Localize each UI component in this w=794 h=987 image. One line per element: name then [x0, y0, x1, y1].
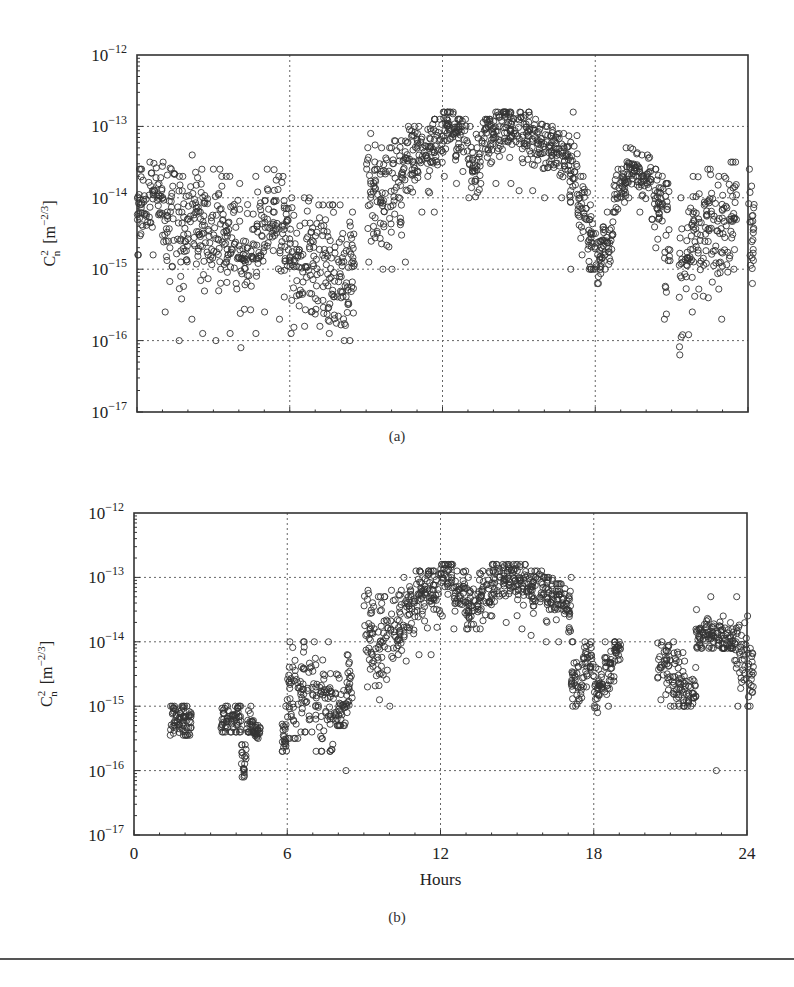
data-point [376, 682, 382, 688]
data-point [416, 652, 422, 658]
data-point [290, 644, 296, 650]
data-point [727, 620, 733, 626]
data-point [452, 608, 458, 614]
data-point [422, 618, 428, 624]
data-point [428, 652, 434, 658]
data-point [708, 594, 714, 600]
data-point [327, 671, 333, 677]
data-point [378, 663, 384, 669]
data-point [361, 603, 367, 609]
page-divider [0, 958, 794, 960]
data-point [720, 613, 726, 619]
data-point [734, 594, 740, 600]
data-point [738, 685, 744, 691]
data-point [309, 729, 315, 735]
data-point [445, 591, 451, 597]
x-axis-label: Hours [420, 870, 462, 889]
data-point [733, 665, 739, 671]
data-point [411, 631, 417, 637]
data-point [306, 660, 312, 666]
data-point [388, 587, 394, 593]
scatter-plot-b: 10−1710−1610−1510−1410−1310−1206121824Ho… [0, 0, 794, 930]
data-point [322, 672, 328, 678]
data-point [401, 574, 407, 580]
data-point [376, 697, 382, 703]
data-point [693, 664, 699, 670]
data-point [403, 658, 409, 664]
data-point [693, 607, 699, 613]
data-point [326, 704, 332, 710]
data-point [553, 617, 559, 623]
data-point [434, 624, 440, 630]
x-tick-label: 12 [432, 844, 449, 863]
data-point [514, 613, 520, 619]
data-point [480, 618, 486, 624]
data-point [503, 619, 509, 625]
data-point [320, 657, 326, 663]
data-point [344, 710, 350, 716]
y-tick-label: 10−16 [88, 758, 124, 781]
data-point [312, 655, 318, 661]
y-tick-label: 10−17 [88, 822, 124, 845]
data-point [279, 748, 285, 754]
data-point [424, 625, 430, 631]
y-tick-label: 10−13 [88, 564, 124, 587]
data-point [522, 561, 528, 567]
caption-b: (b) [0, 909, 794, 926]
x-tick-label: 24 [739, 844, 757, 863]
data-point [519, 626, 525, 632]
x-tick-label: 18 [585, 844, 602, 863]
data-point [377, 646, 383, 652]
data-point [299, 710, 305, 716]
data-point [454, 568, 460, 574]
y-tick-label: 10−14 [88, 629, 124, 652]
x-tick-label: 0 [130, 844, 139, 863]
data-point [658, 697, 664, 703]
y-tick-label: 10−12 [88, 500, 124, 523]
data-point [379, 600, 385, 606]
data-point [675, 665, 681, 671]
data-point [528, 632, 534, 638]
data-point [364, 684, 370, 690]
y-tick-label: 10−15 [88, 693, 124, 716]
data-point [327, 748, 333, 754]
data-point [530, 610, 536, 616]
data-point [389, 611, 395, 617]
data-point [605, 671, 611, 677]
data-point [399, 647, 405, 653]
data-point [316, 724, 322, 730]
plot-area [134, 513, 756, 835]
data-point [298, 729, 304, 735]
data-point [570, 696, 576, 702]
x-tick-label: 6 [283, 844, 292, 863]
scatter-points [167, 561, 756, 780]
y-axis-label: C2n [m−2/3] [35, 641, 59, 707]
data-point [451, 626, 457, 632]
data-point [477, 626, 483, 632]
data-point [670, 682, 676, 688]
data-point [520, 602, 526, 608]
data-point [390, 655, 396, 661]
data-point [292, 657, 298, 663]
